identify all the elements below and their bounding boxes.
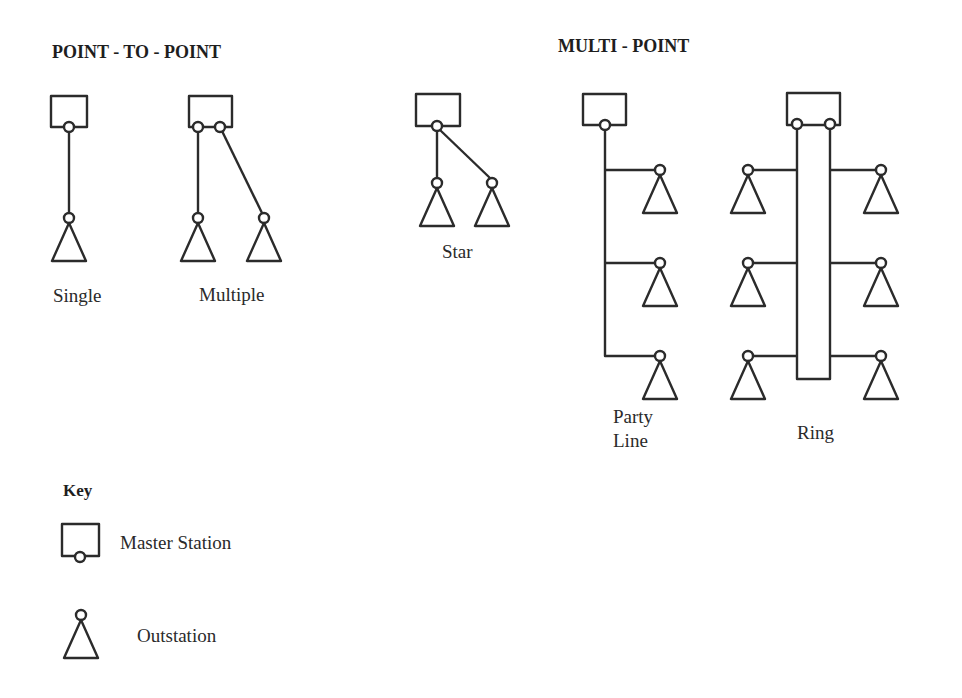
label-single: Single (53, 285, 102, 307)
outstation-icon (731, 351, 765, 399)
outstation-icon (864, 351, 898, 399)
topology-ring (731, 93, 898, 399)
outstation-icon (731, 165, 765, 213)
topology-single (51, 96, 87, 261)
label-star: Star (442, 241, 473, 263)
key-title: Key (63, 481, 92, 501)
outstation-icon (181, 213, 215, 261)
topology-star (416, 94, 509, 226)
outstation-icon (643, 351, 677, 399)
outstation-icon (731, 258, 765, 306)
outstation-icon (643, 165, 677, 213)
key-outstation-icon (64, 610, 98, 658)
key-label-outstation: Outstation (137, 625, 216, 647)
outstation-icon (420, 178, 454, 226)
outstation-icon (864, 258, 898, 306)
outstation-icon (52, 213, 86, 261)
label-party: Party (613, 406, 653, 428)
label-line: Line (613, 430, 648, 452)
key-master-station-icon (62, 524, 99, 562)
outstation-icon (247, 213, 281, 261)
label-multiple: Multiple (199, 284, 264, 306)
topology-diagram (0, 0, 962, 698)
label-ring: Ring (797, 422, 834, 444)
outstation-icon (475, 178, 509, 226)
key-label-master-station: Master Station (120, 532, 231, 554)
topology-party-line (583, 94, 677, 399)
outstation-icon (643, 258, 677, 306)
topology-multiple (181, 96, 281, 261)
outstation-icon (864, 165, 898, 213)
